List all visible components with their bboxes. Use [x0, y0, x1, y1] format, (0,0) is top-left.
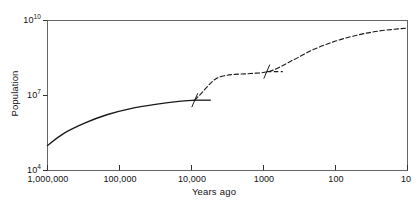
y-axis-title: Population	[9, 54, 20, 134]
x-tick-label-10000: 10,000	[164, 174, 220, 184]
x-tick-label-10: 10	[391, 174, 420, 184]
x-tick-label-1000000: 1,000,000	[17, 174, 79, 184]
y-tick-label-1e10: 1010	[0, 15, 41, 25]
x-axis-ticks	[48, 165, 408, 171]
data-series-layer	[48, 28, 408, 145]
x-tick-label-100000: 100,000	[91, 174, 149, 184]
x-axis-title: Years ago	[0, 186, 420, 197]
y-tick-label-1e7: 107	[0, 90, 41, 100]
x-tick-label-1000: 1000	[240, 174, 288, 184]
y-axis-ticks	[43, 21, 48, 171]
population-chart: 104 107 1010 1,000,000 100,000 10,000 10…	[0, 0, 420, 210]
series-path-1	[195, 28, 408, 100]
x-tick-label-100: 100	[315, 174, 357, 184]
plot-frame	[48, 21, 408, 171]
series-path-0	[48, 100, 195, 145]
